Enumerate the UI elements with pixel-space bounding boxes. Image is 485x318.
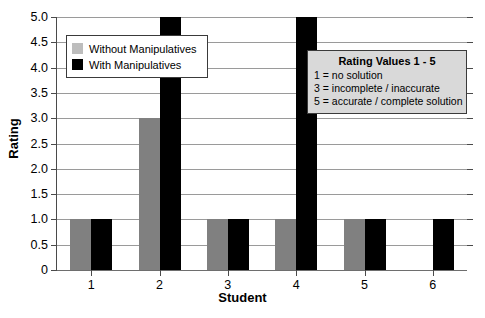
x-tick-mark [365,270,366,276]
annotation-title: Rating Values 1 - 5 [314,55,460,67]
annotation-line-1: 1 = no solution [314,69,460,82]
y-tick-mark [51,169,57,170]
annotation-line-3: 5 = accurate / complete solution [314,95,460,108]
bar-without-student-3 [207,219,228,270]
legend-label-without: Without Manipulatives [89,43,197,55]
y-tick-label: 2.0 [31,162,48,176]
y-tick-mark [51,118,57,119]
y-tick-mark-right [467,144,473,145]
bar-with-student-5 [365,219,386,270]
y-tick-mark [51,194,57,195]
bar-with-student-1 [91,219,112,270]
bar-with-student-3 [228,219,249,270]
bar-without-student-1 [70,219,91,270]
y-tick-mark [51,68,57,69]
y-tick-mark [51,42,57,43]
y-tick-label: 1.5 [31,187,48,201]
y-tick-mark-right [467,245,473,246]
legend-item-with: With Manipulatives [72,57,202,72]
gridline [57,144,467,145]
y-tick-label: 0.5 [31,238,48,252]
legend-label-with: With Manipulatives [89,59,181,71]
x-tick-mark [433,270,434,276]
bar-without-student-2 [139,118,160,270]
black-swatch-icon [72,59,83,70]
y-tick-mark [51,144,57,145]
y-tick-label: 3.5 [31,86,48,100]
x-tick-mark [91,270,92,276]
bar-chart-figure: Rating 00.51.01.52.02.53.03.54.04.55.0 1… [0,0,485,318]
y-tick-mark-right [467,118,473,119]
rating-values-annotation: Rating Values 1 - 5 1 = no solution 3 = … [307,50,467,114]
gridline [57,219,467,220]
bar-without-student-4 [275,219,296,270]
y-tick-mark [51,93,57,94]
y-tick-label: 4.0 [31,61,48,75]
y-tick-mark [51,219,57,220]
gridline [57,169,467,170]
gridline [57,118,467,119]
y-axis-title: Rating [6,109,21,169]
y-tick-label: 1.0 [31,212,48,226]
y-tick-mark [51,17,57,18]
gridline [57,194,467,195]
y-tick-label: 5.0 [31,10,48,24]
gray-swatch-icon [72,43,83,54]
y-tick-mark-right [467,169,473,170]
y-tick-label: 2.5 [31,137,48,151]
gridline [57,17,467,18]
y-tick-label: 0 [41,263,48,277]
x-tick-mark [296,270,297,276]
y-tick-label: 3.0 [31,111,48,125]
y-tick-mark-right [467,93,473,94]
y-tick-mark-right [467,68,473,69]
y-tick-mark-right [467,219,473,220]
annotation-line-2: 3 = incomplete / inaccurate [314,82,460,95]
bar-with-student-6 [433,219,454,270]
x-tick-mark [228,270,229,276]
y-tick-mark-right [467,194,473,195]
chart-legend: Without Manipulatives With Manipulatives [66,35,208,78]
y-tick-mark-right [467,17,473,18]
x-axis-title: Student [0,290,485,305]
y-tick-mark [51,270,57,271]
y-tick-mark [51,245,57,246]
legend-item-without: Without Manipulatives [72,41,202,56]
y-tick-mark-right [467,42,473,43]
gridline [57,245,467,246]
x-tick-mark [160,270,161,276]
gridline [57,270,467,271]
y-tick-label: 4.5 [31,35,48,49]
bar-without-student-5 [344,219,365,270]
